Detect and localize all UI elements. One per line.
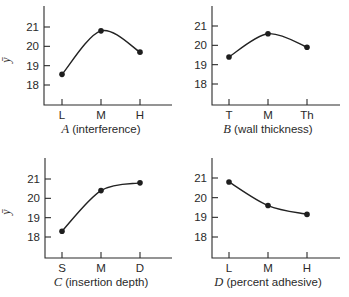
y-axis-label: ȳ <box>0 57 13 64</box>
x-category-label: M <box>96 262 106 274</box>
x-category-label: M <box>263 262 273 274</box>
response-curve <box>62 30 140 74</box>
data-point <box>226 54 232 60</box>
y-tick-label: 19 <box>26 60 39 72</box>
data-point <box>265 203 271 209</box>
x-category-label: S <box>58 262 66 274</box>
y-tick-label: 18 <box>194 231 207 243</box>
y-tick-label: 21 <box>27 173 40 185</box>
x-axis-caption: C (insertion depth) <box>54 275 149 289</box>
x-category-label: L <box>226 262 233 274</box>
y-tick-label: 20 <box>26 40 39 52</box>
panel-D: 18192021LMHD (percent adhesive) <box>194 158 340 289</box>
panel-C: 18192021SMDC (insertion depth)ȳ <box>0 158 172 289</box>
axes <box>45 158 172 258</box>
data-point <box>304 44 310 50</box>
data-point <box>304 212 310 218</box>
data-point <box>137 49 143 55</box>
y-tick-label: 21 <box>194 172 207 184</box>
data-point <box>59 228 65 234</box>
response-curve <box>229 182 307 214</box>
y-tick-label: 18 <box>26 79 39 91</box>
response-curve <box>229 34 307 57</box>
x-category-label: H <box>136 109 144 121</box>
data-point <box>98 28 104 34</box>
y-tick-label: 19 <box>194 59 207 71</box>
y-tick-label: 19 <box>27 212 40 224</box>
factor-effects-figure: 18192021LMHA (interference)ȳ18192021TMTh… <box>0 0 349 297</box>
y-axis-label: ȳ <box>0 209 13 216</box>
data-point <box>137 180 143 186</box>
x-category-label: T <box>225 109 232 121</box>
y-tick-label: 21 <box>194 20 207 32</box>
panel-A: 18192021LMHA (interference)ȳ <box>0 6 172 136</box>
y-tick-label: 18 <box>194 78 207 90</box>
y-tick-label: 20 <box>27 192 40 204</box>
panel-B: 18192021TMThB (wall thickness) <box>194 6 340 136</box>
y-tick-label: 19 <box>194 211 207 223</box>
x-category-label: L <box>59 109 66 121</box>
axes <box>44 6 172 105</box>
x-category-label: H <box>303 262 311 274</box>
y-tick-label: 21 <box>26 21 39 33</box>
y-tick-label: 18 <box>27 231 40 243</box>
y-tick-label: 20 <box>194 39 207 51</box>
x-axis-caption: B (wall thickness) <box>223 122 313 136</box>
x-category-label: M <box>96 109 106 121</box>
x-axis-caption: D (percent adhesive) <box>213 275 322 289</box>
x-category-label: M <box>263 109 273 121</box>
data-point <box>59 72 65 78</box>
x-category-label: D <box>136 262 144 274</box>
data-point <box>265 31 271 37</box>
y-tick-label: 20 <box>194 192 207 204</box>
x-axis-caption: A (interference) <box>60 122 140 136</box>
data-point <box>226 179 232 185</box>
x-category-label: Th <box>300 109 313 121</box>
data-point <box>98 188 104 194</box>
